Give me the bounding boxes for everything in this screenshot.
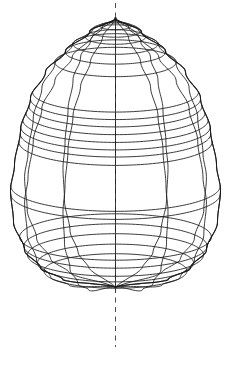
meridian-line-front [10, 18, 115, 287]
meridian-line-front [116, 18, 207, 287]
meridian-line-back [25, 18, 116, 287]
meridian-line-back [116, 18, 207, 287]
ovoid-wireframe-drawing [0, 0, 237, 365]
meridian-line-front [116, 18, 221, 287]
meridian-line-back [116, 18, 169, 287]
meridian-line-front [25, 18, 116, 287]
meridian-line-back [63, 18, 116, 287]
figure-canvas [0, 0, 237, 365]
